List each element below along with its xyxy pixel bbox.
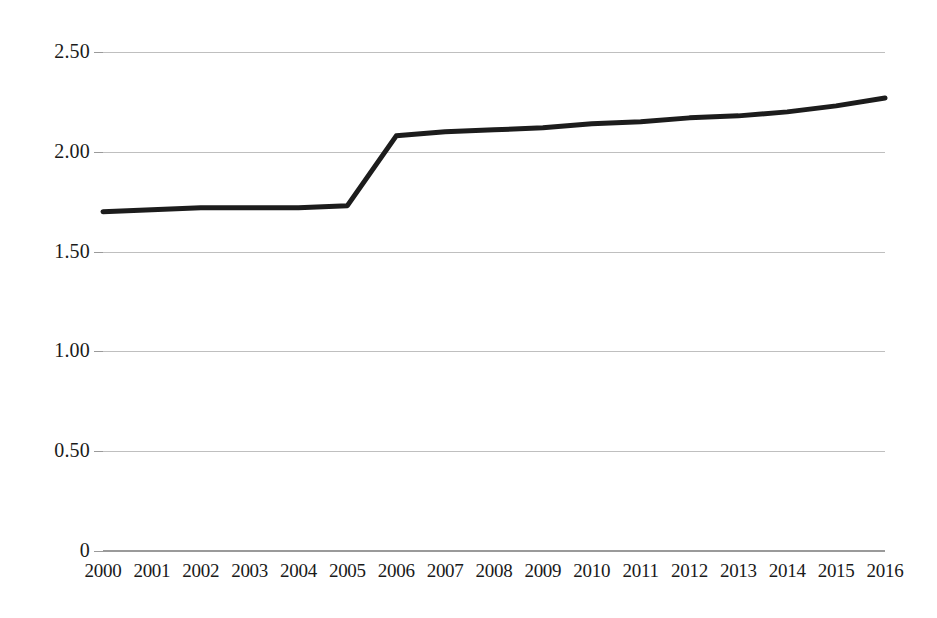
series-layer [0,0,937,618]
line-chart: 2.502.001.501.000.500 200020012002200320… [0,0,937,618]
data-line-series-0 [103,98,885,212]
